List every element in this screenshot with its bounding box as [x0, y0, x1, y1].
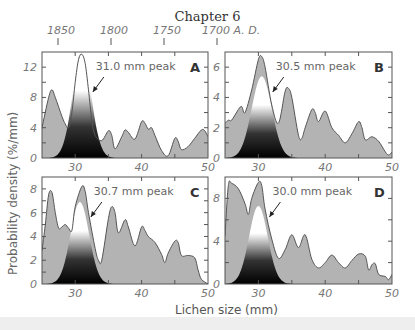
x-tick-label: 30 [68, 287, 82, 300]
charts-svg: 30405004812A31.0 mm peak3040500246B30.5 … [0, 0, 415, 330]
panel-letter: D [374, 185, 385, 200]
y-tick-label: 4 [213, 235, 220, 248]
y-tick-label: 6 [30, 207, 37, 220]
panel-a: 30405004812A31.0 mm peak [23, 52, 215, 174]
y-tick-label: 0 [30, 152, 37, 165]
x-tick-label: 40 [318, 287, 332, 300]
y-tick-label: 2 [30, 254, 37, 267]
peak-annotation: 30.0 mm peak [272, 185, 352, 198]
x-tick-label: 30 [68, 161, 82, 174]
y-tick-label: 8 [213, 192, 220, 205]
panel-letter: B [374, 60, 384, 75]
peak-annotation: 30.7 mm peak [94, 185, 174, 198]
panel-d: 304050048D30.0 mm peak [213, 177, 399, 300]
x-tick-label: 50 [385, 161, 399, 174]
x-axis-label: Lichen size (mm) [175, 303, 278, 317]
y-tick-label: 8 [30, 183, 37, 196]
panel-letter: C [190, 185, 200, 200]
panel-letter: A [190, 60, 200, 75]
panel-b: 3040500246B30.5 mm peak [213, 52, 399, 174]
y-tick-label: 2 [213, 122, 220, 135]
y-tick-label: 0 [213, 152, 220, 165]
x-tick-label: 30 [251, 287, 265, 300]
y-tick-label: 0 [30, 278, 37, 291]
panel-c: 30405002468C30.7 mm peak [30, 177, 215, 300]
y-axis-label: Probability density (%/mm) [6, 112, 20, 275]
y-tick-label: 6 [213, 61, 220, 74]
peak-annotation: 31.0 mm peak [96, 60, 176, 73]
y-tick-label: 8 [30, 91, 37, 104]
peak-annotation: 30.5 mm peak [276, 60, 356, 73]
x-tick-label: 50 [385, 287, 399, 300]
y-tick-label: 4 [213, 91, 220, 104]
x-tick-label: 40 [318, 161, 332, 174]
y-tick-label: 0 [213, 278, 220, 291]
bottom-band [0, 317, 415, 330]
x-tick-label: 30 [251, 161, 265, 174]
x-tick-label: 40 [135, 161, 149, 174]
x-tick-label: 40 [135, 287, 149, 300]
y-tick-label: 4 [30, 230, 37, 243]
y-tick-label: 12 [23, 61, 37, 74]
y-tick-label: 4 [30, 122, 37, 135]
